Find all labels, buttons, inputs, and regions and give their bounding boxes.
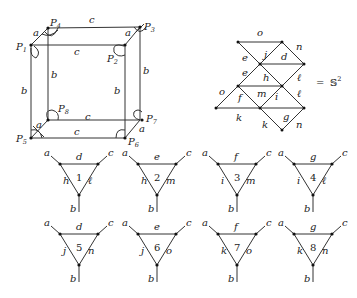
edge-label: c	[74, 46, 80, 57]
edge-label: m	[257, 88, 266, 99]
edge-label: a	[36, 119, 42, 130]
edge-label: d	[281, 51, 287, 62]
edge-label: ℓ	[297, 88, 301, 99]
label-p8: P8	[57, 103, 69, 116]
label-a: a	[44, 217, 50, 228]
triangle-7: acf7kob	[202, 217, 272, 284]
label-p6: P6	[127, 136, 139, 149]
edge-label: e	[242, 67, 248, 78]
edge-label: f	[237, 92, 244, 103]
triangle-5: acd5jnb	[44, 217, 114, 284]
edge-left: i	[297, 175, 300, 186]
triangle-number: 5	[76, 242, 82, 253]
label-a: a	[278, 147, 284, 158]
label-c: c	[342, 217, 348, 228]
edge-right: n	[88, 245, 94, 256]
edge-right: o	[246, 245, 252, 256]
label-c: c	[186, 147, 192, 158]
triangle-number: 1	[76, 172, 82, 183]
triangle-number: 8	[310, 242, 316, 253]
edge-label: n	[296, 119, 302, 130]
triangle-6: ace6job	[122, 217, 192, 284]
triangulation-diagram: o n j d e e h ℓ ℓ o m i f k g k n = 𝕊2	[215, 27, 342, 132]
label-b: b	[228, 203, 234, 214]
edge-top: d	[76, 151, 82, 162]
label-c: c	[186, 217, 192, 228]
edge-label: c	[89, 14, 95, 25]
label-b: b	[148, 203, 154, 214]
edge-label: ℓ	[297, 72, 301, 83]
edge-label: b	[143, 65, 149, 76]
label-p7: P7	[145, 113, 158, 126]
sphere-symbol: 𝕊2	[330, 75, 341, 88]
edge-left: j	[61, 245, 66, 256]
triangle-1: acd1hℓb	[44, 147, 114, 214]
diagram-canvas: P4 P1 P2 P3 P8 P7 P5 P6 c c c c b b b b …	[0, 0, 357, 298]
label-b: b	[70, 273, 76, 284]
label-p1: P1	[15, 41, 27, 54]
edge-label: e	[242, 52, 248, 63]
label-a: a	[202, 147, 208, 158]
edge-right: n	[322, 245, 328, 256]
triangle-number: 7	[234, 242, 240, 253]
triangle-number: 6	[154, 242, 160, 253]
edge-left: h	[63, 175, 69, 186]
edge-label: k	[262, 119, 268, 130]
edge-label: n	[296, 41, 302, 52]
label-a: a	[122, 217, 128, 228]
label-c: c	[108, 217, 114, 228]
edge-label: b	[51, 69, 57, 80]
edge-label: b	[21, 85, 27, 96]
label-b: b	[304, 273, 310, 284]
edge-label: j	[262, 49, 267, 60]
edge-right: m	[246, 175, 255, 186]
triangle-3: acf3imb	[202, 147, 272, 214]
edge-left: j	[139, 245, 144, 256]
edge-top: d	[76, 221, 82, 232]
edge-top: e	[154, 221, 160, 232]
edge-right: ℓ	[322, 175, 326, 186]
label-a: a	[278, 217, 284, 228]
label-b: b	[228, 273, 234, 284]
edge-label: o	[219, 86, 225, 97]
label-c: c	[266, 147, 272, 158]
edge-label: i	[275, 91, 278, 102]
triangle-8: acg8knb	[278, 217, 348, 284]
edge-left: k	[297, 245, 303, 256]
label-a: a	[202, 217, 208, 228]
edge-left: k	[221, 245, 227, 256]
edge-label: a	[139, 123, 145, 134]
triangle-number: 3	[234, 172, 240, 183]
edge-right: o	[166, 245, 172, 256]
edge-right: ℓ	[88, 175, 92, 186]
edge-label: c	[85, 111, 91, 122]
label-c: c	[342, 147, 348, 158]
label-p5: P5	[15, 133, 27, 146]
cube-diagram: P4 P1 P2 P3 P8 P7 P5 P6 c c c c b b b b …	[15, 14, 158, 149]
edge-top: g	[310, 221, 316, 232]
edge-label: g	[283, 111, 289, 122]
edge-label: a	[125, 27, 131, 38]
label-a: a	[44, 147, 50, 158]
edge-top: f	[233, 151, 240, 162]
equals-sign: =	[316, 77, 324, 88]
edge-left: h	[141, 175, 147, 186]
edge-label: c	[74, 126, 80, 137]
edge-top: g	[310, 151, 316, 162]
label-p3: P3	[143, 21, 155, 34]
edge-label: b	[114, 85, 120, 96]
edge-top: f	[233, 221, 240, 232]
edge-right: m	[166, 175, 175, 186]
label-b: b	[304, 203, 310, 214]
edge-top: e	[154, 151, 160, 162]
label-b: b	[70, 203, 76, 214]
edge-left: i	[221, 175, 224, 186]
triangle-4: acg4iℓb	[278, 147, 348, 214]
triangle-number: 4	[310, 172, 316, 183]
label-c: c	[266, 217, 272, 228]
label-b: b	[148, 273, 154, 284]
edge-label: k	[236, 112, 242, 123]
edge-label: o	[257, 27, 263, 38]
triangle-number: 2	[154, 172, 160, 183]
label-c: c	[108, 147, 114, 158]
